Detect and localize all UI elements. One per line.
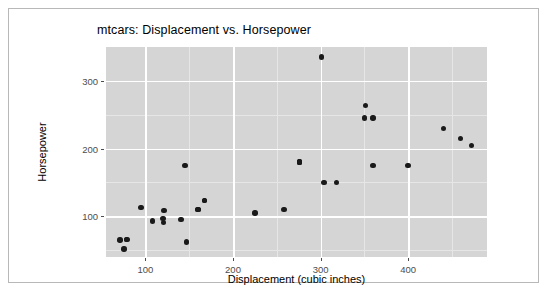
- y-axis-tick-labels: 100200300: [71, 47, 98, 257]
- data-point: [370, 163, 375, 168]
- data-point: [182, 163, 187, 168]
- data-point: [405, 163, 410, 168]
- data-point: [161, 220, 166, 225]
- x-tick-mark: [233, 258, 234, 261]
- gridline-major-vertical: [408, 47, 410, 257]
- data-point: [124, 237, 129, 242]
- gridline-major-vertical: [145, 47, 147, 257]
- gridline-major-horizontal: [106, 81, 487, 83]
- data-point: [161, 208, 166, 213]
- data-point: [138, 205, 143, 210]
- data-point: [281, 207, 286, 212]
- gridline-minor-vertical: [277, 47, 278, 257]
- page-title: mtcars: Displacement vs. Horsepower: [97, 23, 311, 37]
- data-point: [458, 136, 463, 141]
- x-tick-mark: [321, 258, 322, 261]
- x-axis-tick-labels: 100200300400: [106, 258, 487, 274]
- gridline-minor-horizontal: [106, 250, 487, 251]
- data-point: [441, 126, 446, 131]
- y-tick-label: 100: [82, 211, 98, 222]
- data-point: [363, 103, 368, 108]
- x-tick-mark: [145, 258, 146, 261]
- data-point: [370, 115, 375, 120]
- data-point: [469, 143, 474, 148]
- data-point: [334, 180, 339, 185]
- plot-panel: [106, 47, 487, 257]
- data-point: [362, 115, 367, 120]
- x-tick-mark: [408, 258, 409, 261]
- gridline-minor-vertical: [452, 47, 453, 257]
- y-tick-mark: [101, 149, 104, 150]
- y-axis-title: Horsepower: [36, 122, 48, 181]
- gridline-major-vertical: [233, 47, 235, 257]
- data-point: [184, 239, 189, 244]
- data-point: [117, 237, 122, 242]
- data-point: [252, 210, 257, 215]
- y-tick-mark: [101, 216, 104, 217]
- gridline-minor-vertical: [189, 47, 190, 257]
- y-tick-label: 200: [82, 143, 98, 154]
- data-point: [297, 159, 302, 164]
- data-point: [121, 246, 126, 251]
- y-tick-mark: [101, 81, 104, 82]
- data-point: [195, 207, 200, 212]
- gridline-minor-horizontal: [106, 115, 487, 116]
- data-point: [319, 54, 324, 59]
- x-axis-title: Displacement (cubic inches): [106, 273, 487, 285]
- data-point: [321, 180, 326, 185]
- figure-container: mtcars: Displacement vs. Horsepower 1002…: [8, 8, 539, 283]
- gridline-major-horizontal: [106, 149, 487, 151]
- data-point: [202, 198, 207, 203]
- data-point: [178, 217, 183, 222]
- gridline-minor-horizontal: [106, 182, 487, 183]
- data-point: [150, 218, 155, 223]
- gridline-minor-vertical: [364, 47, 365, 257]
- gridline-major-vertical: [321, 47, 323, 257]
- y-tick-label: 300: [82, 75, 98, 86]
